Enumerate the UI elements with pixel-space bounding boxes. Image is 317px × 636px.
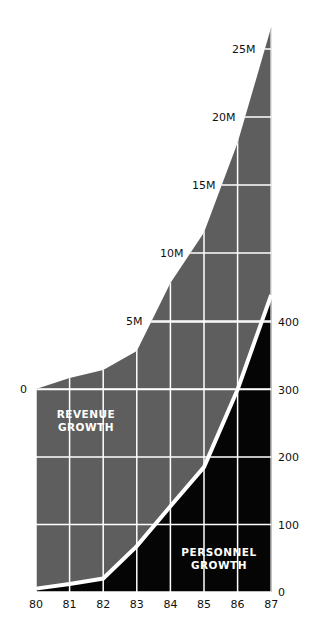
personnel-growth-label: GROWTH: [191, 559, 247, 571]
year-tick-label: 85: [197, 598, 211, 611]
revenue-tick-label: 25M: [232, 43, 256, 56]
year-tick-label: 82: [96, 598, 110, 611]
revenue-tick-label: 20M: [212, 111, 236, 124]
personnel-tick-label: 200: [278, 451, 299, 464]
year-axis-labels: 8081828384858687: [29, 598, 278, 611]
personnel-tick-label: 0: [278, 586, 285, 599]
revenue-tick-label: 10M: [160, 247, 184, 260]
growth-chart: 05M10M15M20M25M 0100200300400 8081828384…: [0, 0, 317, 636]
personnel-tick-label: 300: [278, 384, 299, 397]
revenue-tick-label: 0: [20, 383, 27, 396]
year-tick-label: 80: [29, 598, 43, 611]
year-tick-label: 81: [63, 598, 77, 611]
revenue-tick-label: 15M: [192, 179, 216, 192]
year-tick-label: 86: [231, 598, 245, 611]
year-tick-label: 84: [163, 598, 177, 611]
personnel-axis-labels: 0100200300400: [278, 316, 299, 599]
personnel-tick-label: 100: [278, 519, 299, 532]
revenue-growth-label: GROWTH: [58, 421, 114, 433]
year-tick-label: 83: [130, 598, 144, 611]
year-tick-label: 87: [264, 598, 278, 611]
personnel-growth-label: PERSONNEL: [181, 546, 256, 558]
personnel-tick-label: 400: [278, 316, 299, 329]
revenue-tick-label: 5M: [126, 315, 143, 328]
revenue-growth-label: REVENUE: [57, 408, 116, 420]
